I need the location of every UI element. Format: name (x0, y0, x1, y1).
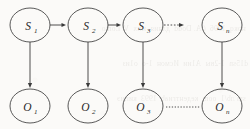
node-o1[interactable]: O 1 (10, 89, 50, 123)
node-label-subscript: 3 (146, 108, 151, 116)
node-label-subscript: n (226, 27, 230, 35)
node-on[interactable]: O n (202, 89, 242, 123)
arrowhead-icon (62, 23, 67, 27)
node-s3[interactable]: S 3 (123, 8, 163, 42)
transition-edge-s2-s3 (108, 23, 121, 27)
transition-edge-s1-s2 (50, 23, 66, 27)
arrowhead-icon (220, 83, 224, 88)
node-label-base: O (215, 101, 224, 113)
node-s2[interactable]: S 2 (68, 8, 108, 42)
transition-edge-s3-sn-dashed (164, 23, 184, 27)
node-label-subscript: 2 (92, 27, 96, 35)
hmm-diagram-figure: нокq 1996 ( A. Dodd дляия мих V. Lomo d1… (0, 0, 250, 129)
node-label-base: O (81, 101, 90, 113)
node-label-subscript: 2 (92, 108, 96, 116)
node-label-subscript: 1 (34, 27, 38, 35)
emission-edge-sn-on (220, 42, 224, 88)
node-sn[interactable]: S n (202, 8, 242, 42)
node-s1[interactable]: S 1 (10, 8, 50, 42)
node-label-base: O (136, 101, 145, 113)
arrowhead-icon (86, 83, 90, 88)
arrowhead-icon (28, 83, 32, 88)
node-label-base: S (138, 20, 144, 32)
graph-canvas: S 1 S 2 S 3 S n O 1 O 2 (0, 0, 250, 129)
arrowhead-icon (179, 23, 184, 27)
node-label-base: S (83, 20, 89, 32)
arrowhead-icon (141, 83, 145, 88)
node-label-base: S (217, 20, 223, 32)
emission-edge-s2-o2 (86, 42, 90, 88)
node-label-subscript: 3 (146, 27, 151, 35)
node-label-subscript: n (226, 108, 230, 116)
node-label-base: S (25, 20, 31, 32)
emission-edge-s1-o1 (28, 42, 32, 88)
arrowhead-icon (117, 23, 122, 27)
node-label-base: O (23, 101, 32, 113)
node-o2[interactable]: O 2 (68, 89, 108, 123)
node-o3[interactable]: O 3 (123, 89, 163, 123)
emission-edge-s3-o3 (141, 42, 145, 88)
node-label-subscript: 1 (34, 108, 38, 116)
